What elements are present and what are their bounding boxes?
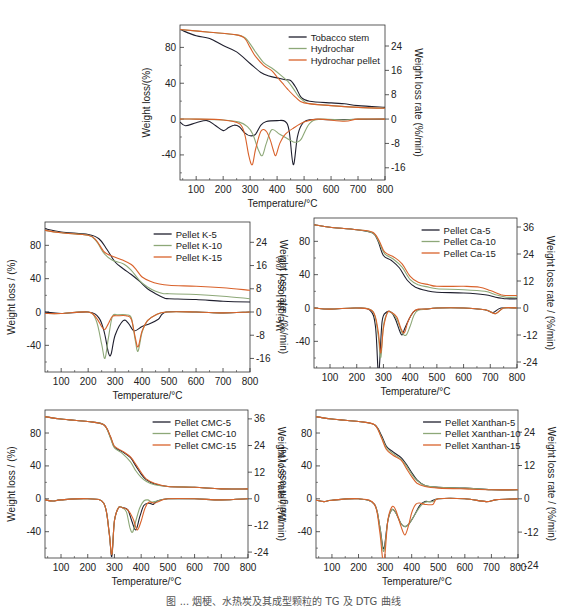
- y2-tick-label: -8: [391, 138, 400, 149]
- x-tick-label: 500: [296, 184, 313, 195]
- dtg-line-pellet-ca-10: [314, 308, 517, 358]
- x-tick-label: 300: [375, 372, 392, 383]
- x-tick-label: 600: [186, 562, 203, 573]
- x-axis: 100200300400500600700800Temperature/°C: [183, 176, 394, 209]
- y2-tick-label: -8: [256, 330, 265, 341]
- y-tick-label: 40: [301, 460, 313, 471]
- x-tick-label: 100: [322, 372, 339, 383]
- x-axis: 100200300400500600700800Temperature/°C: [319, 554, 527, 587]
- legend-label: Pellet CMC-15: [175, 440, 237, 451]
- y2-tick-label: -24: [524, 560, 539, 571]
- x-tick-label: 400: [134, 376, 151, 387]
- x-tick-label: 300: [242, 184, 259, 195]
- y2-tick-label: 36: [523, 222, 535, 233]
- x-tick-label: 300: [377, 562, 394, 573]
- x-tick-label: 200: [80, 376, 97, 387]
- y-tick-label: -40: [27, 340, 42, 351]
- y2-tick-label: 12: [523, 276, 535, 287]
- legend-label: Pellet Ca-10: [444, 236, 496, 247]
- y2-tick-label: 36: [254, 413, 266, 424]
- dtg-line-pellet-k-10: [45, 312, 250, 359]
- x-tick-label: 500: [429, 372, 446, 383]
- legend-label: Pellet K-15: [176, 252, 222, 263]
- x-tick-label: 700: [213, 562, 230, 573]
- y-tick-label: 40: [299, 269, 311, 280]
- y-axis-title: Weight loss / (%): [6, 259, 17, 334]
- y-tick-label: 0: [304, 303, 310, 314]
- y-axis-right: -24-1201224Weight loss rate / (%/min): [518, 427, 557, 571]
- y2-tick-label: 8: [391, 89, 397, 100]
- legend-label: Pellet Xanthan-10: [445, 428, 521, 439]
- chart-e: 100200300400500600700800Temperature/°C-4…: [277, 410, 557, 587]
- legend-label: Tobacco stem: [311, 32, 370, 43]
- x-tick-label: 600: [323, 184, 340, 195]
- y2-tick-label: 0: [523, 303, 529, 314]
- legend-label: Hydrochar: [311, 43, 355, 54]
- legend-label: Pellet K-5: [176, 229, 217, 240]
- x-tick-label: 400: [402, 372, 419, 383]
- y2-tick-label: 0: [256, 307, 262, 318]
- x-tick-label: 100: [53, 562, 70, 573]
- legend: Tobacco stemHydrocharHydrochar pellet: [289, 32, 381, 66]
- legend-label: Hydrochar pellet: [311, 55, 381, 66]
- dtg-line-pellet-ca-5: [314, 308, 517, 375]
- dtg-line-pellet-xanthan-5: [316, 498, 518, 548]
- y2-tick-label: 24: [256, 237, 268, 248]
- y-tick-label: 40: [165, 78, 177, 89]
- y-tick-label: 0: [35, 307, 41, 318]
- y2-tick-label: 12: [254, 467, 266, 478]
- legend: Pellet Xanthan-5Pellet Xanthan-10Pellet …: [423, 417, 521, 451]
- legend-label: Pellet Ca-5: [444, 225, 491, 236]
- chart-c: 100200300400500600700800Temperature/°C-4…: [275, 218, 556, 397]
- chart-a: 100200300400500600700800Temperature/°C-4…: [141, 25, 424, 209]
- legend: Pellet Ca-5Pellet Ca-10Pellet Ca-15: [422, 225, 496, 259]
- x-axis-title: Temperature/°C: [247, 198, 317, 209]
- x-tick-label: 800: [509, 372, 526, 383]
- legend-label: Pellet Xanthan-15: [445, 440, 521, 451]
- y2-tick-label: 24: [391, 41, 403, 52]
- y-tick-label: 0: [35, 493, 41, 504]
- legend-label: Pellet CMC-10: [175, 428, 237, 439]
- x-tick-label: 700: [215, 376, 232, 387]
- y2-tick-label: -24: [523, 357, 538, 368]
- dtg-line-pellet-cmc-15: [45, 499, 248, 555]
- y-tick-label: 80: [30, 428, 42, 439]
- x-tick-label: 500: [160, 562, 177, 573]
- y2-tick-label: 16: [256, 260, 268, 271]
- x-tick-label: 400: [403, 562, 420, 573]
- y-axis-title: Weight loss/(%): [141, 68, 152, 138]
- dtg-line-pellet-k-5: [45, 311, 250, 355]
- x-tick-label: 500: [430, 562, 447, 573]
- y-tick-label: -40: [296, 336, 311, 347]
- y-tick-label: 80: [30, 240, 42, 251]
- dtg-line-pellet-xanthan-10: [316, 498, 518, 551]
- x-tick-label: 200: [215, 184, 232, 195]
- y2-tick-label: 0: [391, 114, 397, 125]
- dtg-line-pellet-ca-15: [314, 308, 517, 353]
- y2-tick-label: 0: [524, 493, 530, 504]
- x-tick-label: 100: [53, 376, 70, 387]
- x-tick-label: 700: [350, 184, 367, 195]
- y2-tick-label: 12: [524, 460, 536, 471]
- x-axis-title: Temperature/°C: [112, 390, 182, 401]
- y-tick-label: 0: [170, 114, 176, 125]
- y-tick-label: 80: [165, 42, 177, 53]
- y2-tick-label: 16: [391, 65, 403, 76]
- y2-tick-label: -16: [256, 353, 271, 364]
- y-tick-label: -40: [27, 526, 42, 537]
- x-axis-title: Temperature/°C: [382, 576, 452, 587]
- dtg-line-pellet-xanthan-15: [316, 498, 518, 562]
- x-axis: 100200300400500600700800Temperature/°C: [317, 364, 526, 397]
- x-tick-label: 700: [483, 562, 500, 573]
- dtg-line-pellet-cmc-10: [45, 499, 248, 555]
- y-tick-label: -40: [162, 149, 177, 160]
- y-axis-left: -4004080Weight loss / (%): [6, 417, 49, 549]
- legend: Pellet CMC-5Pellet CMC-10Pellet CMC-15: [153, 417, 237, 451]
- chart-d: 100200300400500600700800Temperature/°C-4…: [6, 410, 287, 587]
- y2-tick-label: -12: [523, 330, 538, 341]
- x-tick-label: 600: [456, 562, 473, 573]
- figure-caption: 图 ... 烟梗、水热炭及其成型颗粒的 TG 及 DTG 曲线: [0, 593, 567, 607]
- dtg-line-pellet-cmc-5: [45, 499, 248, 557]
- x-tick-label: 700: [482, 372, 499, 383]
- dtg-line-hydrochar-pellet: [180, 119, 385, 165]
